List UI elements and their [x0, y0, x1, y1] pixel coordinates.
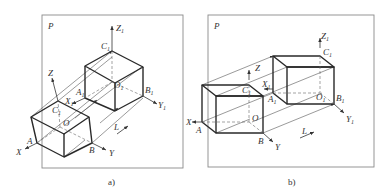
axis-label-x1-a: X1 [64, 96, 74, 107]
projection-plane-a [42, 15, 183, 168]
point-label-o1-b: O1 [316, 92, 326, 103]
point-label-c-a: C1 [52, 105, 61, 116]
point-label-c1-b: C1 [323, 47, 332, 58]
point-label-o-a: O [63, 118, 70, 128]
axis-label-y-b: Y [275, 142, 281, 152]
point-label-b-b: B [258, 136, 264, 146]
axis-label-y1-b: Y1 [346, 114, 354, 125]
plane-label-b: P [213, 21, 220, 31]
point-label-o-b: O [252, 113, 259, 123]
caption-b: b) [288, 177, 296, 187]
point-label-a1-b: A1 [267, 94, 277, 105]
plane-label-a: P [47, 21, 54, 31]
axis-label-x1-b: X1 [261, 79, 271, 90]
point-label-a-a: A [26, 136, 33, 146]
caption-a: a) [108, 177, 115, 187]
direction-label-a: L [113, 122, 119, 132]
point-label-c-b: C1 [242, 85, 251, 96]
axis-label-x-a: X [15, 147, 22, 157]
axis-label-z-b: Z [255, 63, 261, 73]
point-label-b1-a: B1 [145, 85, 154, 96]
axis-label-x-b: X [185, 117, 192, 127]
projection-plane-b [208, 15, 374, 167]
point-label-a-b: A [195, 125, 202, 135]
point-label-b-a: B [89, 145, 95, 155]
axis-label-z1-a: Z1 [116, 23, 124, 34]
point-label-a1-a: A1 [75, 87, 85, 98]
axis-label-z-a: Z [48, 68, 54, 78]
direction-label-b: L [301, 126, 307, 136]
axis-label-y1-a: Y1 [158, 100, 166, 111]
panel-a: P [15, 15, 183, 187]
axis-label-z1-b: Z1 [321, 31, 329, 42]
panel-b: P [185, 15, 374, 187]
axis-label-y-a: Y [109, 148, 115, 158]
prism-b-near [202, 85, 263, 133]
point-label-c1-a: C1 [101, 41, 110, 52]
projection-diagram: P [0, 0, 383, 195]
point-label-b1-b: B1 [336, 93, 345, 104]
